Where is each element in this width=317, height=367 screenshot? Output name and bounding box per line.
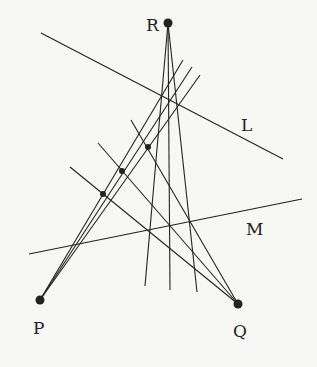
- point-label-Q: Q: [233, 321, 247, 341]
- intersection-dot-0: [145, 144, 151, 150]
- ray-R-0: [145, 23, 168, 286]
- lines-layer: [29, 19, 302, 309]
- point-label-R: R: [146, 15, 160, 35]
- point-label-P: P: [33, 318, 44, 338]
- ray-R-1: [168, 23, 170, 290]
- point-Q: [234, 300, 243, 309]
- ray-P-2: [40, 75, 200, 300]
- ray-P-0: [40, 60, 183, 300]
- intersection-dot-2: [100, 191, 106, 197]
- point-P: [36, 296, 45, 305]
- ray-Q-1: [98, 143, 238, 304]
- point-R: [164, 19, 173, 28]
- line-label-M: M: [246, 219, 263, 239]
- labels-layer: R P Q L M: [33, 15, 263, 341]
- line-label-L: L: [241, 115, 252, 135]
- geometry-diagram: R P Q L M: [0, 0, 317, 367]
- intersection-dot-1: [119, 168, 125, 174]
